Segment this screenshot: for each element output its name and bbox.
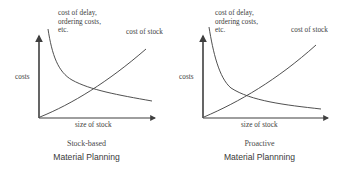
caption-line2-proactive: Material Plannning — [173, 152, 346, 162]
x-axis-label-stock-based: size of stock — [75, 121, 112, 130]
cost-of-delay-label-stock-based: cost of delay, ordering costs, etc. — [58, 9, 101, 35]
cost-of-delay-label-proactive: cost of delay, ordering costs, etc. — [215, 9, 258, 35]
x-axis-label-proactive: size of stock — [241, 121, 278, 130]
plot-area-proactive — [173, 0, 346, 135]
caption-line1-stock-based: Stock-based — [0, 139, 173, 148]
cost-of-stock-label-stock-based: cost of stock — [126, 28, 163, 37]
figure-container: cost of delay, ordering costs, etc. cost… — [0, 0, 347, 175]
cost-of-delay-curve-proactive — [209, 27, 321, 109]
caption-line1-proactive: Proactive — [173, 139, 346, 148]
cost-of-stock-label-proactive: cost of stock — [291, 26, 328, 35]
cost-of-delay-curve-stock-based — [48, 29, 152, 101]
caption-line2-stock-based: Material Planning — [0, 152, 173, 162]
chart-panel-proactive: cost of delay, ordering costs, etc. cost… — [173, 0, 346, 175]
chart-panel-stock-based: cost of delay, ordering costs, etc. cost… — [0, 0, 173, 175]
y-axis-label-stock-based: costs — [15, 73, 30, 82]
y-axis-label-proactive: costs — [179, 73, 194, 82]
